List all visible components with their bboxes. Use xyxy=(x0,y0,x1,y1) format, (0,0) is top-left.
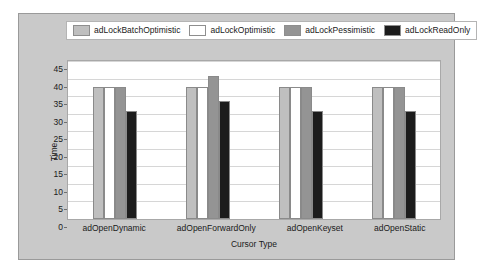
bar-group xyxy=(93,61,137,219)
legend-swatch-icon xyxy=(73,25,90,36)
bar xyxy=(301,87,312,219)
chart-legend: adLockBatchOptimisticadLockOptimisticadL… xyxy=(66,21,477,40)
x-axis-label: adOpenStatic xyxy=(374,223,426,233)
y-tick-label: 35 xyxy=(54,99,63,109)
y-axis-ticks: 454035302520151050 xyxy=(39,60,63,220)
bar xyxy=(405,111,416,219)
bar xyxy=(219,101,230,219)
legend-swatch-icon xyxy=(384,25,401,36)
bar-group xyxy=(186,61,230,219)
x-axis-label: adOpenKeyset xyxy=(287,223,343,233)
y-tick-label: 5 xyxy=(58,204,63,214)
legend-item: adLockOptimistic xyxy=(189,25,275,36)
bar xyxy=(383,87,394,219)
legend-label: adLockPessimistic xyxy=(305,25,375,36)
bar xyxy=(104,87,115,219)
bar xyxy=(312,111,323,219)
bar-group xyxy=(372,61,416,219)
legend-label: adLockReadOnly xyxy=(405,25,470,36)
y-tick-label: 15 xyxy=(54,169,63,179)
legend-label: adLockBatchOptimistic xyxy=(94,25,180,36)
legend-item: adLockPessimistic xyxy=(284,25,375,36)
bar-groups xyxy=(68,61,440,219)
legend-swatch-icon xyxy=(284,25,301,36)
y-tick-label: 30 xyxy=(54,117,63,127)
legend-swatch-icon xyxy=(189,25,206,36)
bar xyxy=(208,76,219,219)
bar xyxy=(93,87,104,219)
bar xyxy=(394,87,405,219)
y-tick-label: 10 xyxy=(54,187,63,197)
y-tick-label: 40 xyxy=(54,82,63,92)
x-axis-label: adOpenDynamic xyxy=(83,223,146,233)
legend-label: adLockOptimistic xyxy=(210,25,275,36)
y-tick-label: 20 xyxy=(54,152,63,162)
legend-item: adLockReadOnly xyxy=(384,25,470,36)
chart-panel: adLockBatchOptimisticadLockOptimisticadL… xyxy=(18,13,455,260)
plot-wrapper: Time 454035302520151050 adOpenDynamicadO… xyxy=(19,51,456,259)
x-axis-title: Cursor Type xyxy=(67,239,441,249)
bar xyxy=(279,87,290,219)
bar xyxy=(126,111,137,219)
bar xyxy=(186,87,197,219)
x-axis-label: adOpenForwardOnly xyxy=(177,223,256,233)
y-tick-label: 25 xyxy=(54,134,63,144)
bar xyxy=(290,87,301,219)
legend-item: adLockBatchOptimistic xyxy=(73,25,180,36)
plot-area xyxy=(67,60,441,220)
y-tick-label: 0 xyxy=(58,222,63,232)
y-tick-label: 45 xyxy=(54,64,63,74)
bar-group xyxy=(279,61,323,219)
bar xyxy=(115,87,126,219)
x-axis-labels: adOpenDynamicadOpenForwardOnlyadOpenKeys… xyxy=(67,223,441,233)
bar xyxy=(372,87,383,219)
bar xyxy=(197,87,208,219)
